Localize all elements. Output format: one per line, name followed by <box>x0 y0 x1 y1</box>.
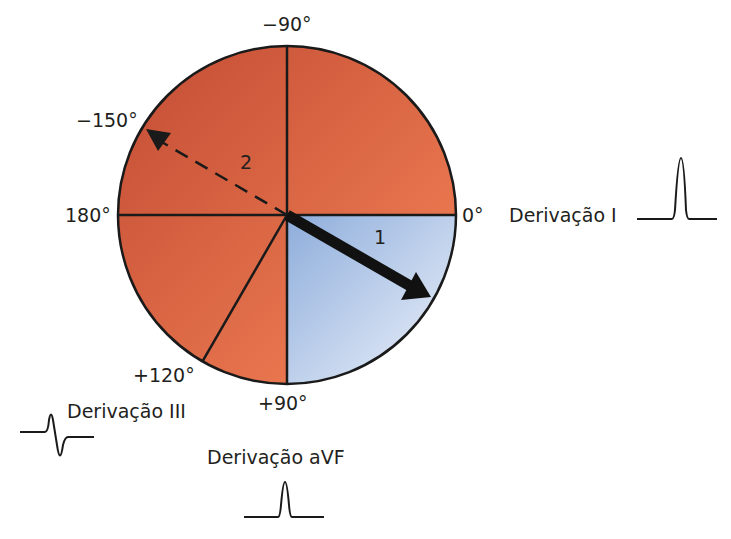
lead-avf-label: Derivação aVF <box>207 448 345 467</box>
hexaxial-diagram <box>0 0 731 539</box>
positive-quadrant <box>287 215 456 384</box>
lead-avf-waveform-icon <box>244 482 324 517</box>
angle-label-minus150: −150° <box>76 111 138 130</box>
vector-label-2: 2 <box>240 153 252 172</box>
angle-label-180: 180° <box>65 206 111 225</box>
vector-label-1: 1 <box>374 228 386 247</box>
angle-label-0: 0° <box>462 206 484 225</box>
lead-i-waveform-icon <box>637 158 717 219</box>
lead-iii-label: Derivação III <box>67 402 186 421</box>
angle-label-plus120: +120° <box>133 366 195 385</box>
angle-label-minus90: −90° <box>262 15 312 34</box>
angle-label-plus90: +90° <box>258 394 308 413</box>
lead-i-label: Derivação I <box>509 206 617 225</box>
